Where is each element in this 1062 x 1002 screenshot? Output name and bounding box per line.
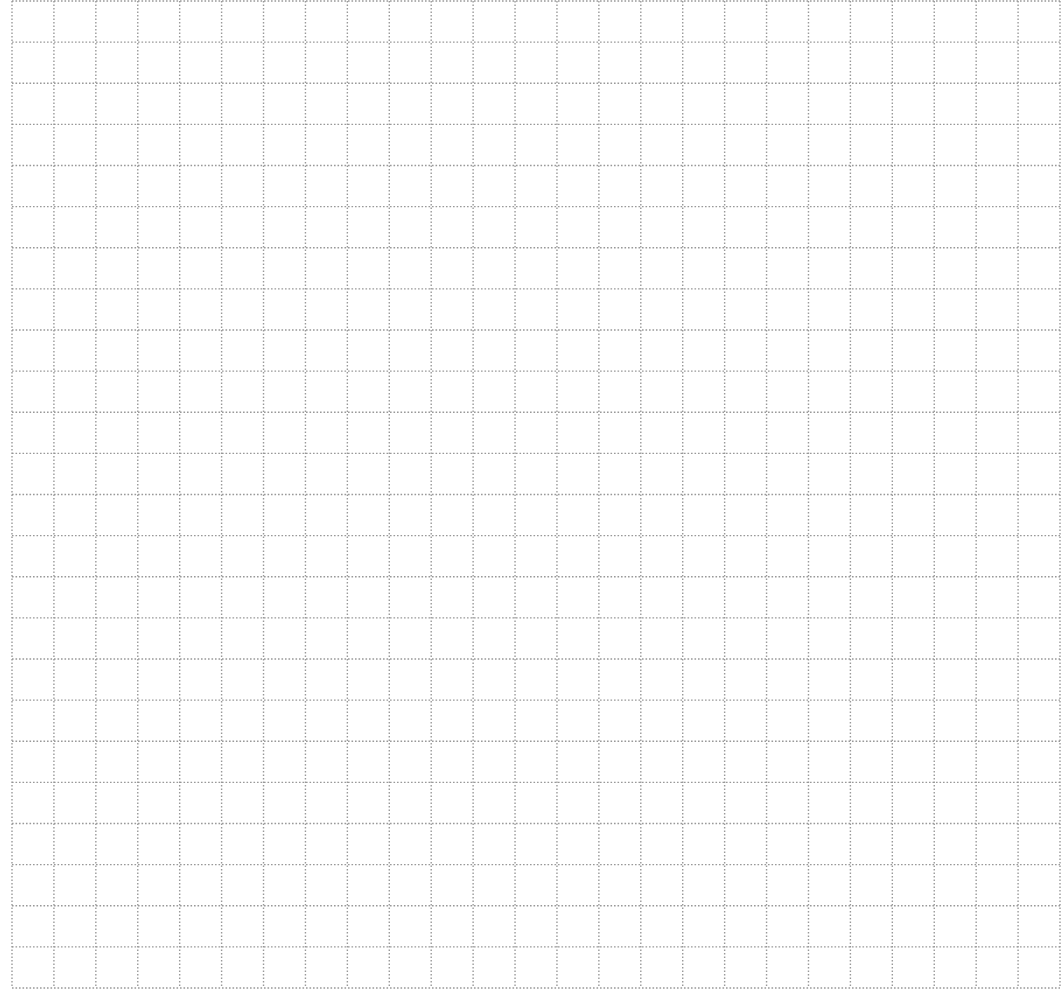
grid-paper — [0, 0, 1062, 1002]
grid-lines — [0, 0, 1062, 1002]
